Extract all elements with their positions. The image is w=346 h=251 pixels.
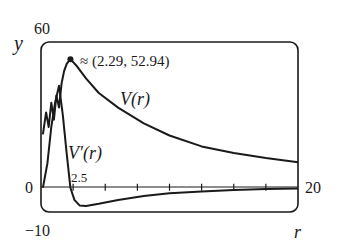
y-max-label: 60 xyxy=(34,20,50,37)
x-tick-label: 2.5 xyxy=(71,170,87,185)
series-label-v: V(r) xyxy=(120,89,150,110)
x-min-label: 0 xyxy=(25,179,33,196)
x-axis-label: r xyxy=(294,222,302,242)
peak-marker xyxy=(67,56,73,62)
peak-annotation: ≈ (2.29, 52.94) xyxy=(80,53,169,70)
chart: y 60 −10 0 20 2.5 r ≈ (2.29, 52.94) V(r)… xyxy=(0,0,346,251)
series-label-v-prime: V′(r) xyxy=(68,143,102,164)
x-max-label: 20 xyxy=(305,179,321,196)
y-min-label: −10 xyxy=(25,222,50,239)
y-axis-label: y xyxy=(12,32,23,55)
